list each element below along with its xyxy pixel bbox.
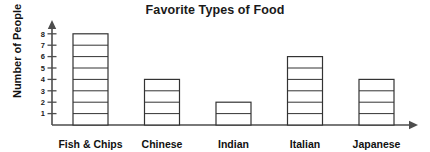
bar xyxy=(359,79,394,125)
y-tick-label: 6 xyxy=(41,52,45,61)
y-tick-label: 5 xyxy=(41,64,45,73)
y-tick-label: 7 xyxy=(41,41,45,50)
bar-series xyxy=(73,34,394,125)
y-tick-label: 4 xyxy=(41,75,46,84)
bar xyxy=(216,102,251,125)
x-axis-category-label: Indian xyxy=(198,138,270,150)
y-tick-label: 2 xyxy=(41,98,45,107)
x-axis-category-label: Italian xyxy=(269,138,341,150)
y-tick-label: 1 xyxy=(41,109,45,118)
bar-chart: Favorite Types of Food Number of People … xyxy=(0,0,430,152)
y-tick-label: 3 xyxy=(41,87,45,96)
x-axis-category-label: Fish & Chips xyxy=(55,138,127,150)
y-tick-label: 8 xyxy=(41,30,45,39)
x-axis-category-label: Chinese xyxy=(126,138,198,150)
chart-plot-area: 12345678 xyxy=(0,0,430,152)
y-axis-ticks: 12345678 xyxy=(41,30,57,119)
bar xyxy=(288,57,323,125)
x-axis-category-label: Japanese xyxy=(341,138,413,150)
bar xyxy=(145,79,180,125)
bar xyxy=(73,34,108,125)
